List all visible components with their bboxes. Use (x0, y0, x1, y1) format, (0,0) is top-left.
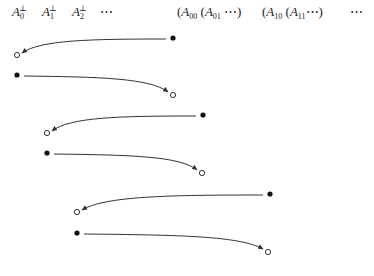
open-dot (44, 130, 49, 135)
filled-dot (74, 230, 79, 235)
back-arrow (52, 116, 196, 131)
filled-dot (267, 191, 272, 196)
filled-dot (44, 150, 49, 155)
back-arrow (82, 195, 263, 210)
open-dot (14, 52, 19, 57)
open-dot (265, 249, 270, 254)
open-dot (199, 170, 204, 175)
filled-dot (170, 35, 175, 40)
forward-arrow (24, 76, 168, 92)
filled-dot (14, 72, 19, 77)
arrow-group-3 (74, 191, 272, 254)
filled-dot (200, 112, 205, 117)
open-dot (74, 209, 79, 214)
forward-arrow (54, 154, 197, 170)
open-dot (170, 92, 175, 97)
forward-arrow (84, 234, 263, 249)
back-arrow (22, 39, 166, 53)
arrow-group-2 (44, 112, 205, 175)
arrow-group-1 (14, 35, 175, 97)
arrow-diagram (0, 0, 374, 276)
